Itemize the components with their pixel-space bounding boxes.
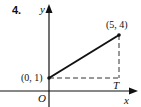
point-5-4-dot xyxy=(117,33,121,37)
problem-number: 4. xyxy=(12,5,21,16)
point-label-5-4: (5, 4) xyxy=(106,20,128,30)
line-segment xyxy=(49,35,119,78)
y-axis-arrow-icon xyxy=(46,4,53,13)
foot-label-t: T xyxy=(113,80,119,91)
diagram-graphics xyxy=(0,0,141,107)
origin-label: O xyxy=(38,93,46,104)
coordinate-diagram: 4. y x O (0, 1) (5, 4) T xyxy=(0,0,141,107)
point-label-0-1: (0, 1) xyxy=(21,73,43,83)
y-axis-label: y xyxy=(40,4,45,15)
x-axis-label: x xyxy=(124,95,129,106)
x-axis-arrow-icon xyxy=(129,88,138,95)
point-0-1-dot xyxy=(47,76,51,80)
